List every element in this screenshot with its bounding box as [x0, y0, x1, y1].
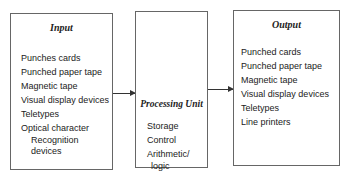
input-title: Input — [11, 22, 112, 33]
output-item: Magnetic tape — [241, 73, 329, 87]
processing-list: Storage Control Arithmetic/ logic — [147, 119, 190, 171]
input-item-continuation: devices — [21, 146, 109, 157]
processing-item-continuation: logic — [147, 161, 190, 171]
processing-item: Storage — [147, 119, 190, 133]
processing-item: Arithmetic/ — [147, 147, 190, 161]
input-item: Punched paper tape — [21, 65, 109, 79]
output-list: Punched cards Punched paper tape Magneti… — [241, 45, 329, 129]
output-item: Punched paper tape — [241, 59, 329, 73]
input-item: Teletypes — [21, 107, 109, 121]
processing-item: Control — [147, 133, 190, 147]
output-title: Output — [234, 19, 339, 30]
output-item: Teletypes — [241, 101, 329, 115]
input-item: Optical character — [21, 121, 109, 135]
arrow-processing-to-output — [208, 89, 233, 90]
arrow-input-to-processing — [113, 93, 135, 94]
input-item: Punches cards — [21, 51, 109, 65]
output-item: Visual display devices — [241, 87, 329, 101]
input-box: Input Punches cards Punched paper tape M… — [10, 13, 113, 170]
processing-title: Processing Unit — [136, 99, 207, 109]
output-box: Output Punched cards Punched paper tape … — [233, 10, 340, 166]
input-item: Visual display devices — [21, 93, 109, 107]
input-list: Punches cards Punched paper tape Magneti… — [21, 51, 109, 157]
output-item: Line printers — [241, 115, 329, 129]
input-item-continuation: Recognition — [21, 135, 109, 146]
input-item: Magnetic tape — [21, 79, 109, 93]
processing-box: Processing Unit Storage Control Arithmet… — [135, 11, 208, 168]
output-item: Punched cards — [241, 45, 329, 59]
